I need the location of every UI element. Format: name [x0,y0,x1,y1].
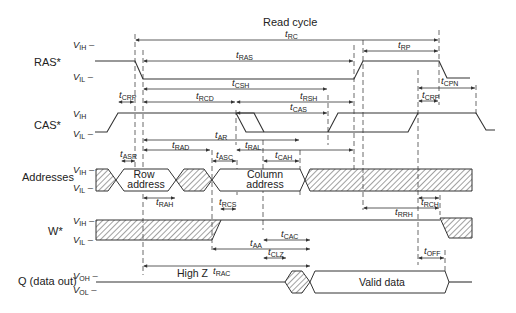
diagram-title: Read cycle [263,16,317,28]
addresses-levels: VIH – VIL – [73,164,95,194]
svg-text:VIL –: VIL – [73,71,94,83]
data-out-levels: VOH – VOL – [73,270,98,296]
svg-text:tRAC: tRAC [213,265,230,277]
svg-text:tCAH: tCAH [275,149,292,161]
cas-levels: VIH VIL – [73,108,94,140]
svg-text:VIL –: VIL – [73,128,94,140]
cas-label: CAS* [34,119,62,131]
svg-text:tAR: tAR [215,129,227,141]
svg-text:tRP: tRP [398,39,411,51]
svg-text:VIH –: VIH – [73,215,95,227]
data-out-label: Q (data out) [18,275,77,287]
ras-levels: VIH – VIL – [73,39,95,83]
svg-text:VOL –: VOL – [73,284,97,296]
svg-text:tRAD: tRAD [172,139,189,151]
ras-label: RAS* [34,56,62,68]
data-out-waveform: High Z Valid data [96,267,472,293]
svg-text:tRAS: tRAS [236,49,253,61]
svg-text:tRCD: tRCD [196,90,214,102]
svg-text:address: address [246,178,283,190]
svg-text:VIH –: VIH – [73,39,95,51]
high-z-label: High Z [177,267,209,279]
addresses-label: Addresses [22,171,74,183]
svg-text:tRSH: tRSH [300,90,317,102]
svg-text:tCAC: tCAC [281,228,298,240]
svg-text:VIL –: VIL – [73,182,94,194]
svg-text:tOFF: tOFF [424,245,441,257]
addresses-waveform: Row address Column address [96,168,472,191]
svg-text:tCPN: tCPN [441,75,458,87]
svg-text:VIH –: VIH – [73,164,95,176]
valid-data-label: Valid data [359,276,405,288]
svg-text:tASR: tASR [120,148,137,160]
svg-text:address: address [127,178,164,190]
svg-text:tRCS: tRCS [219,196,237,208]
reference-lines [135,30,476,280]
write-enable-label: W* [48,225,63,237]
ras-waveform [95,61,470,79]
svg-text:VIL –: VIL – [73,234,94,246]
svg-text:tCAS: tCAS [290,101,307,113]
dram-read-cycle-timing-diagram: Read cycle RAS* CAS* Addresses W* Q (dat… [0,0,516,313]
svg-text:tAA: tAA [250,237,262,249]
svg-text:tRAL: tRAL [245,139,261,151]
svg-text:tASC: tASC [216,149,233,161]
cas-waveform [95,113,495,132]
svg-text:VIH: VIH [73,108,86,120]
svg-text:tCRP: tCRP [119,89,137,101]
svg-text:VOH –: VOH – [73,270,98,282]
svg-text:tCRP: tCRP [422,89,440,101]
write-enable-levels: VIH – VIL – [73,215,95,246]
svg-text:tCLZ: tCLZ [268,246,285,258]
svg-text:tRC: tRC [285,28,298,40]
